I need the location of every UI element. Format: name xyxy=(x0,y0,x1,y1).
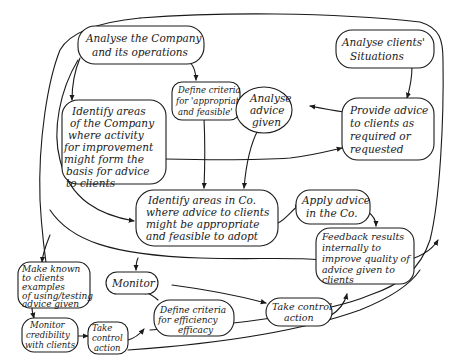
node-text-line: for improvement xyxy=(63,141,154,153)
node-text-line: control xyxy=(92,333,123,343)
svg-text:Monitor: Monitor xyxy=(111,277,156,289)
node-text-line: Identify areas in Co. xyxy=(147,194,256,206)
diagram-canvas: Analyse the Companyand its operations De… xyxy=(0,0,458,364)
node-take-control-right: Take controlaction xyxy=(266,298,332,326)
node-text-line: required or xyxy=(350,130,412,142)
node-text-line: clients xyxy=(322,274,354,285)
node-text-line: Monitor xyxy=(111,277,156,289)
node-text-line: Situations xyxy=(350,50,404,62)
svg-text:Identify areas in Co.where adv: Identify areas in Co.where advice to cli… xyxy=(146,194,270,242)
node-text-line: improve quality of xyxy=(322,253,411,264)
edge-make-known-to-monitor-credibility xyxy=(32,308,34,318)
edge-define-criteria-to-identify-co xyxy=(204,118,205,188)
node-text-line: of the Company xyxy=(70,117,155,129)
node-identify-areas-co: Identify areas in Co.where advice to cli… xyxy=(136,190,278,246)
node-text-line: Take control xyxy=(272,301,332,312)
edge-analyse-clients-to-provide-advice xyxy=(407,66,412,98)
node-text-line: internally to xyxy=(322,242,381,253)
node-text-line: to clients xyxy=(66,177,116,189)
node-text-line: for 'appropriate xyxy=(175,96,244,106)
edge-branch-to-monitor xyxy=(136,258,138,270)
node-text-line: Analyse xyxy=(249,92,292,104)
node-text-line: might form the xyxy=(64,153,144,165)
node-text-line: efficacy xyxy=(178,325,214,335)
node-text-line: where advice to clients xyxy=(146,206,270,218)
node-text-line: Provide advice xyxy=(349,104,428,116)
node-text-line: given xyxy=(252,116,281,128)
node-text-line: to clients as xyxy=(350,117,415,129)
node-analyse-company: Analyse the Companyand its operations xyxy=(78,26,204,64)
node-text-line: credibility xyxy=(26,330,70,340)
node-apply-advice: Apply advicein the Co. xyxy=(296,190,370,224)
node-define-criteria-appropriate: Define criteriafor 'appropriateand feasi… xyxy=(172,82,244,120)
node-text-line: and feasible' xyxy=(178,107,233,117)
node-text-line: action xyxy=(284,312,314,323)
node-text-line: advice given xyxy=(22,299,79,309)
node-text-line: action xyxy=(94,343,121,353)
svg-text:Identify areasof the Companywh: Identify areasof the Companywhere activi… xyxy=(63,105,155,189)
node-identify-areas-company: Identify areasof the Companywhere activi… xyxy=(62,100,166,189)
edge-take-control-left-to-loop xyxy=(128,329,144,340)
node-text-line: Identify areas xyxy=(71,105,146,117)
node-text-line: might be appropriate xyxy=(146,218,259,230)
node-text-line: Feedback results xyxy=(321,231,404,242)
node-text-line: Apply advice xyxy=(301,194,370,206)
node-text-line: requested xyxy=(350,143,404,155)
node-text-line: where activity xyxy=(68,129,145,141)
node-text-line: Take xyxy=(92,323,112,333)
node-define-criteria-efficiency: Define criteriafor efficiencyefficacy xyxy=(154,300,234,336)
edge-identify-areas-to-provide-advice xyxy=(164,148,342,160)
node-text-line: and feasible to adopt xyxy=(146,230,259,242)
node-monitor: Monitor xyxy=(106,272,158,294)
node-make-known: Make knownto clientsexamplesof using/tes… xyxy=(18,262,93,309)
node-monitor-credibility: Monitorcredibilitywith clients xyxy=(22,318,78,352)
edge-analyse-company-to-define-criteria xyxy=(190,62,196,80)
node-text-line: for efficiency xyxy=(157,315,219,325)
node-provide-advice: Provide adviceto clients asrequired orre… xyxy=(342,98,434,160)
node-text-line: Analyse clients' xyxy=(341,36,425,48)
node-text-line: basis for advice xyxy=(66,165,149,177)
node-text-line: with clients xyxy=(25,340,76,350)
node-text-line: Define criteria xyxy=(177,85,241,95)
node-text-line: Monitor xyxy=(29,320,66,330)
node-take-control-left: Takecontrolaction xyxy=(88,322,128,354)
node-analyse-clients: Analyse clients'Situations xyxy=(336,30,434,68)
node-text-line: advice xyxy=(250,104,284,116)
node-text-line: Define criteria xyxy=(159,305,226,315)
node-text-line: and its operations xyxy=(92,46,189,58)
node-text-line: in the Co. xyxy=(306,207,358,219)
node-text-line: Analyse the Company xyxy=(85,32,202,44)
node-analyse-advice: Analyseadvicegiven xyxy=(236,87,292,133)
node-feedback-results: Feedback resultsinternally toimprove qua… xyxy=(316,228,414,285)
edge-provide-advice-to-analyse-advice xyxy=(310,106,344,112)
